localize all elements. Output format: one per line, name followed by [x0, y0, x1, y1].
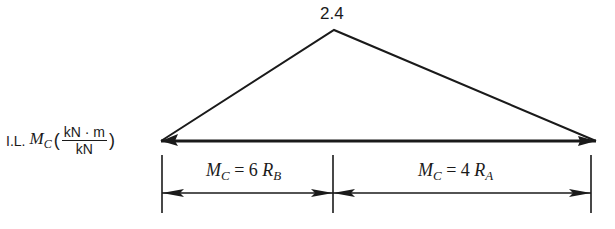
unit-denominator: kN: [76, 141, 93, 157]
eq-reaction-letter: R: [262, 160, 273, 180]
open-paren: (: [54, 130, 60, 151]
influence-line-diagram: [0, 0, 615, 229]
eq-symbol-sub: C: [433, 168, 442, 183]
influence-line-label: I.L. MC ( kN · m kN ): [6, 124, 117, 157]
eq-reaction: RB: [262, 160, 281, 180]
eq-symbol-letter: M: [418, 160, 433, 180]
apex-value-label: 2.4: [320, 4, 344, 24]
eq-symbol: MC: [206, 160, 230, 180]
eq-reaction-sub: B: [273, 168, 281, 183]
segment-left-equation: MC = 6 RB: [206, 160, 281, 184]
eq-reaction-sub: A: [485, 168, 493, 183]
unit-fraction: kN · m kN: [62, 124, 107, 157]
influence-triangle: [161, 30, 596, 141]
il-prefix: I.L.: [6, 133, 25, 149]
eq-reaction-letter: R: [474, 160, 485, 180]
eq-symbol-letter: M: [206, 160, 221, 180]
unit-numerator: kN · m: [62, 124, 107, 141]
eq-symbol: MC: [418, 160, 442, 180]
close-paren: ): [109, 130, 115, 151]
il-subscript: C: [44, 137, 52, 151]
eq-symbol-sub: C: [221, 168, 230, 183]
segment-right-equation: MC = 4 RA: [418, 160, 493, 184]
il-symbol-letter: M: [29, 129, 43, 148]
eq-reaction: RA: [474, 160, 493, 180]
eq-rhs: = 6: [230, 160, 258, 180]
eq-rhs: = 4: [442, 160, 470, 180]
il-symbol: MC: [29, 129, 51, 152]
